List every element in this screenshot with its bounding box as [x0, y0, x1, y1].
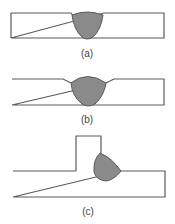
panel-c-base-plate	[13, 171, 165, 197]
panel-b-weld-bead	[71, 77, 106, 107]
panel-a	[11, 12, 164, 39]
panel-c	[13, 136, 165, 197]
panel-a-weld-bead	[72, 12, 103, 39]
panel-b	[12, 77, 164, 107]
panel-b-label: (b)	[72, 114, 102, 125]
panel-c-label: (c)	[73, 206, 103, 217]
weld-diagram	[0, 0, 175, 224]
panel-c-fillet-weld	[94, 153, 121, 181]
panel-a-label: (a)	[72, 48, 102, 59]
